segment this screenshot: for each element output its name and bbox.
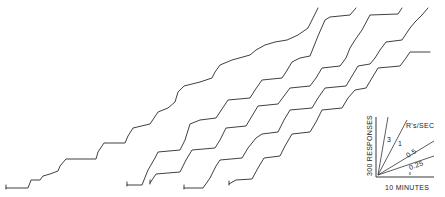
rate-label-05: 0.5 (405, 147, 418, 159)
key-x-label: 10 MINUTES (385, 184, 429, 191)
rate-label-025: 0.25 (408, 159, 424, 171)
rate-line-05 (378, 141, 434, 175)
rate-key: 3 1 R's/SEC 0.5 0.25 10 MINUTES 300 RESP… (366, 115, 434, 191)
rate-label-3: 3 (387, 136, 391, 143)
record-1-line (6, 8, 318, 188)
record-4-line (184, 8, 428, 188)
key-y-label: 300 RESPONSES (366, 115, 373, 176)
rate-label-1: 1 (398, 140, 402, 147)
cumulative-records-figure: 3 1 R's/SEC 0.5 0.25 10 MINUTES 300 RESP… (0, 0, 445, 197)
record-5-line (229, 52, 430, 184)
rate-title: R's/SEC (406, 122, 434, 129)
